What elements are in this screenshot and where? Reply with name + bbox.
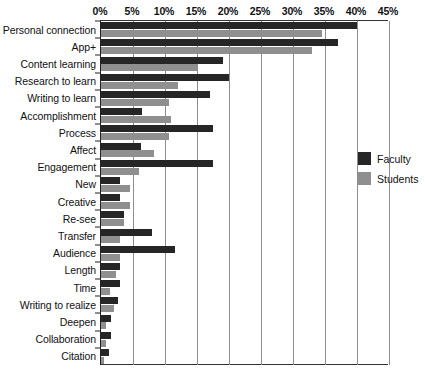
- bar-row: [101, 21, 388, 38]
- bar-faculty: [101, 349, 109, 356]
- category-label: Personal connection: [3, 24, 96, 36]
- bar-faculty: [101, 177, 120, 184]
- gridline: [389, 21, 390, 365]
- category-label: Creative: [58, 196, 96, 208]
- bar-row: [101, 279, 388, 296]
- x-tick-label: 45%: [378, 5, 398, 17]
- category-tick: [95, 124, 100, 125]
- category-label: Process: [59, 127, 96, 139]
- bar-students: [101, 288, 110, 295]
- bar-row: [101, 193, 388, 210]
- category-tick: [95, 141, 100, 142]
- bar-students: [101, 271, 116, 278]
- bar-faculty: [101, 57, 223, 64]
- bar-row: [101, 38, 388, 55]
- category-tick: [95, 296, 100, 297]
- bar-chart: 0%5%10%15%20%25%30%35%40%45% Personal co…: [0, 0, 425, 375]
- bar-row: [101, 176, 388, 193]
- legend-swatch: [358, 152, 371, 165]
- bar-students: [101, 99, 169, 106]
- bar-faculty: [101, 246, 175, 253]
- bar-faculty: [101, 280, 120, 287]
- category-tick: [95, 193, 100, 194]
- category-tick: [95, 347, 100, 348]
- x-tick-label: 35%: [314, 5, 334, 17]
- bar-students: [101, 168, 139, 175]
- bar-faculty: [101, 263, 120, 270]
- bar-students: [101, 185, 130, 192]
- bar-faculty: [101, 39, 338, 46]
- bar-faculty: [101, 125, 213, 132]
- bar-row: [101, 227, 388, 244]
- category-label: Collaboration: [35, 333, 96, 345]
- x-tick-label: 0%: [93, 5, 108, 17]
- bar-row: [101, 262, 388, 279]
- bar-faculty: [101, 229, 152, 236]
- category-tick: [95, 244, 100, 245]
- bar-row: [101, 313, 388, 330]
- legend-item: Faculty: [358, 152, 418, 165]
- bar-faculty: [101, 22, 357, 29]
- bar-students: [101, 219, 124, 226]
- legend-label: Faculty: [377, 153, 411, 165]
- bar-students: [101, 82, 178, 89]
- category-tick: [95, 227, 100, 228]
- bar-row: [101, 245, 388, 262]
- bar-row: [101, 55, 388, 72]
- bar-students: [101, 357, 104, 364]
- bar-row: [101, 348, 388, 365]
- bar-row: [101, 107, 388, 124]
- category-tick: [95, 107, 100, 108]
- x-tick-label: 30%: [282, 5, 302, 17]
- bar-students: [101, 133, 169, 140]
- category-tick: [95, 89, 100, 90]
- category-label: Research to learn: [15, 75, 96, 87]
- bar-students: [101, 322, 106, 329]
- category-tick: [95, 330, 100, 331]
- bar-faculty: [101, 332, 111, 339]
- category-label: Content learning: [21, 58, 96, 70]
- category-label: Transfer: [58, 230, 96, 242]
- x-tick-label: 15%: [186, 5, 206, 17]
- bar-students: [101, 150, 154, 157]
- bar-row: [101, 159, 388, 176]
- bar-row: [101, 296, 388, 313]
- bar-row: [101, 331, 388, 348]
- category-tick: [95, 261, 100, 262]
- bar-faculty: [101, 194, 120, 201]
- bar-students: [101, 236, 120, 243]
- legend-swatch: [358, 172, 371, 185]
- x-tick-label: 20%: [218, 5, 238, 17]
- category-label: Re-see: [63, 213, 96, 225]
- plot-area: [100, 21, 388, 365]
- bar-students: [101, 47, 312, 54]
- bar-faculty: [101, 108, 142, 115]
- x-tick-label: 25%: [250, 5, 270, 17]
- legend-item: Students: [358, 172, 418, 185]
- x-tick-label: 10%: [154, 5, 174, 17]
- bar-students: [101, 254, 120, 261]
- bar-row: [101, 73, 388, 90]
- category-label: Citation: [61, 350, 96, 362]
- category-label: Engagement: [37, 161, 96, 173]
- bar-faculty: [101, 91, 210, 98]
- bar-students: [101, 202, 130, 209]
- category-tick: [95, 175, 100, 176]
- bar-faculty: [101, 143, 141, 150]
- bar-students: [101, 340, 106, 347]
- x-tick-label: 5%: [125, 5, 140, 17]
- category-label: Accomplishment: [20, 110, 96, 122]
- bar-students: [101, 116, 171, 123]
- category-label: Writing to realize: [20, 299, 96, 311]
- category-label: Time: [73, 282, 96, 294]
- bar-faculty: [101, 297, 118, 304]
- category-label: Affect: [70, 144, 96, 156]
- category-tick: [95, 21, 100, 22]
- category-tick: [95, 158, 100, 159]
- category-tick: [95, 55, 100, 56]
- bar-row: [101, 210, 388, 227]
- bar-faculty: [101, 160, 213, 167]
- category-label: App+: [72, 41, 96, 53]
- x-tick-label: 40%: [346, 5, 366, 17]
- bar-row: [101, 124, 388, 141]
